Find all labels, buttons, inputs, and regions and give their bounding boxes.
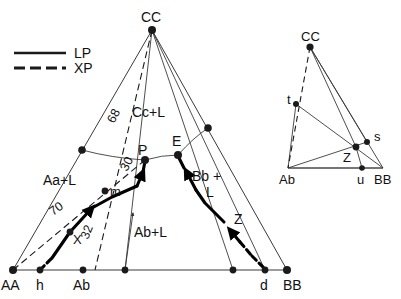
inset-point-cc[interactable] bbox=[306, 43, 313, 50]
label-num-68: 68 bbox=[104, 107, 123, 126]
point-base-b2[interactable] bbox=[230, 267, 237, 274]
phase-diagram-svg: LP XP bbox=[0, 0, 401, 299]
inset-point-u[interactable] bbox=[359, 165, 365, 171]
point-aa[interactable] bbox=[9, 266, 17, 274]
point-e[interactable] bbox=[174, 151, 182, 159]
point-base-b1[interactable] bbox=[122, 267, 129, 274]
xp-line-aa-p bbox=[13, 160, 145, 270]
inset-diagram: CC Ab BB t s u Z bbox=[279, 29, 391, 187]
inset-line-cc-z bbox=[310, 47, 356, 147]
label-field-bb-2: L bbox=[206, 184, 214, 200]
tie-lines bbox=[82, 30, 265, 270]
legend-xp-label: XP bbox=[74, 60, 93, 76]
point-right-cotectic-end[interactable] bbox=[204, 124, 212, 132]
legend: LP XP bbox=[14, 45, 93, 76]
figure-canvas: LP XP bbox=[0, 0, 401, 299]
inset-label-z: Z bbox=[343, 150, 351, 165]
inset-point-z[interactable] bbox=[353, 144, 360, 151]
label-ab: Ab bbox=[73, 277, 90, 293]
point-h[interactable] bbox=[37, 267, 44, 274]
main-diagram-labels: CC AA BB h Ab d P E m X Cc+L Aa+L Ab+L B… bbox=[1, 9, 302, 293]
inset-point-t[interactable] bbox=[293, 101, 299, 107]
inset-dashed-cc-ab bbox=[288, 47, 310, 168]
inset-point-s[interactable] bbox=[364, 139, 370, 145]
inset-label-ab: Ab bbox=[279, 172, 295, 187]
point-d[interactable] bbox=[262, 267, 269, 274]
label-e: E bbox=[172, 133, 181, 149]
label-p: P bbox=[138, 142, 147, 158]
inset-line-t-bb bbox=[296, 104, 383, 168]
inset-label-bb: BB bbox=[374, 172, 391, 187]
tieline-cc-d bbox=[152, 30, 265, 270]
inset-label-s: s bbox=[374, 129, 381, 144]
label-d: d bbox=[260, 277, 268, 293]
label-cc: CC bbox=[141, 9, 161, 25]
point-bb[interactable] bbox=[283, 266, 291, 274]
inset-label-cc: CC bbox=[301, 29, 320, 44]
lp-path-to-p-arrow bbox=[137, 172, 143, 186]
lp-path-x-seg bbox=[52, 232, 70, 258]
point-ab[interactable] bbox=[80, 267, 87, 274]
lp-path-z-d-dashed bbox=[240, 242, 252, 256]
label-aa: AA bbox=[1, 277, 20, 293]
inset-label-t: t bbox=[287, 92, 291, 107]
label-m: m bbox=[110, 184, 121, 199]
label-field-aa: Aa+L bbox=[43, 172, 76, 188]
point-cc[interactable] bbox=[148, 26, 156, 34]
label-num-70: 70 bbox=[47, 199, 67, 219]
label-field-ab: Ab+L bbox=[134, 224, 167, 240]
inset-label-u: u bbox=[357, 172, 364, 187]
cotectic-p-e bbox=[145, 155, 178, 160]
point-m[interactable] bbox=[102, 188, 109, 195]
legend-lp-label: LP bbox=[74, 45, 91, 61]
lp-path-to-d-dashed bbox=[252, 256, 264, 268]
label-h: h bbox=[36, 277, 44, 293]
point-left-cotectic-end[interactable] bbox=[78, 146, 86, 154]
ab-direction-arrow bbox=[125, 213, 133, 270]
cotectic-left-curve bbox=[82, 150, 145, 160]
label-field-cc: Cc+L bbox=[132, 104, 165, 120]
label-field-bb-1: Bb + bbox=[192, 168, 221, 184]
lp-path-z-arrow bbox=[230, 230, 240, 242]
inset-line-cc-s bbox=[310, 47, 367, 142]
edge-cc-bb bbox=[152, 30, 287, 270]
label-bb: BB bbox=[283, 277, 302, 293]
label-z-path: Z bbox=[234, 211, 243, 227]
